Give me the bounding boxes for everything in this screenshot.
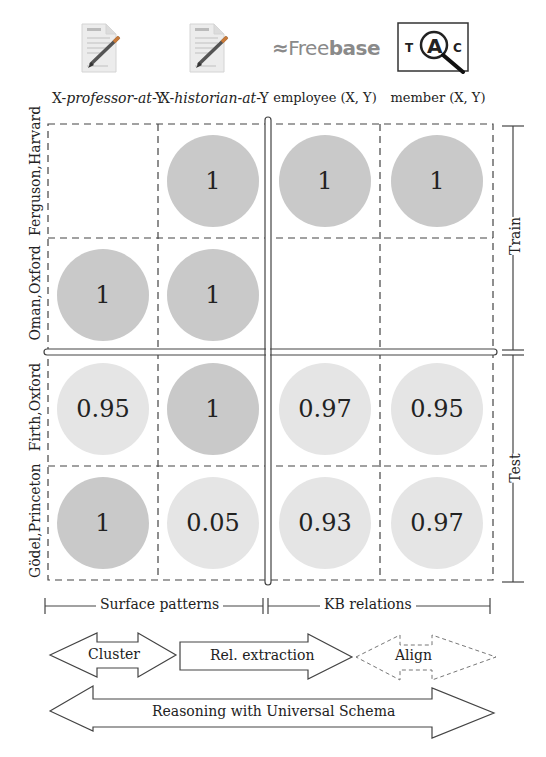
score-circle: 0.95 bbox=[391, 363, 483, 455]
cell-r2-c2: 0.97 bbox=[270, 352, 380, 466]
score-circle: 0.97 bbox=[279, 363, 371, 455]
cell-r1-c1: 1 bbox=[158, 238, 268, 352]
align-arrow-label: Align bbox=[395, 647, 432, 663]
score-circle: 0.93 bbox=[279, 477, 371, 569]
cell-r0-c2: 1 bbox=[270, 124, 380, 238]
test-label: Test bbox=[505, 453, 525, 482]
cell-r2-c0: 0.95 bbox=[48, 352, 158, 466]
cell-r0-c3: 1 bbox=[382, 124, 492, 238]
cell-r3-c0: 1 bbox=[48, 466, 158, 580]
score-circle: 1 bbox=[167, 249, 259, 341]
cell-r3-c2: 0.93 bbox=[270, 466, 380, 580]
cell-r1-c0: 1 bbox=[48, 238, 158, 352]
cell-r0-c1: 1 bbox=[158, 124, 268, 238]
surface-patterns-label: Surface patterns bbox=[96, 596, 223, 612]
cell-r3-c1: 0.05 bbox=[158, 466, 268, 580]
cell-r2-c3: 0.95 bbox=[382, 352, 492, 466]
score-circle: 0.05 bbox=[167, 477, 259, 569]
cell-r2-c1: 1 bbox=[158, 352, 268, 466]
cluster-arrow-label: Cluster bbox=[88, 646, 140, 662]
score-circle: 1 bbox=[391, 135, 483, 227]
rel-extraction-arrow-label: Rel. extraction bbox=[210, 647, 314, 663]
score-circle: 1 bbox=[57, 249, 149, 341]
score-circle: 0.95 bbox=[57, 363, 149, 455]
universal-schema-arrow-label: Reasoning with Universal Schema bbox=[152, 703, 395, 719]
kb-relations-label: KB relations bbox=[320, 596, 416, 612]
row-label-oman-oxford: Oman,Oxford bbox=[27, 236, 43, 350]
score-circle: 1 bbox=[279, 135, 371, 227]
row-label-ferguson-harvard: Ferguson,Harvard bbox=[27, 122, 43, 236]
cell-r3-c3: 0.97 bbox=[382, 466, 492, 580]
score-circle: 0.97 bbox=[391, 477, 483, 569]
train-label: Train bbox=[505, 217, 525, 255]
row-label-firth-oxford: Firth,Oxford bbox=[27, 350, 43, 464]
score-circle: 1 bbox=[167, 363, 259, 455]
score-circle: 1 bbox=[167, 135, 259, 227]
row-label-godel-princeton: Gödel,Princeton bbox=[27, 464, 43, 578]
score-circle: 1 bbox=[57, 477, 149, 569]
